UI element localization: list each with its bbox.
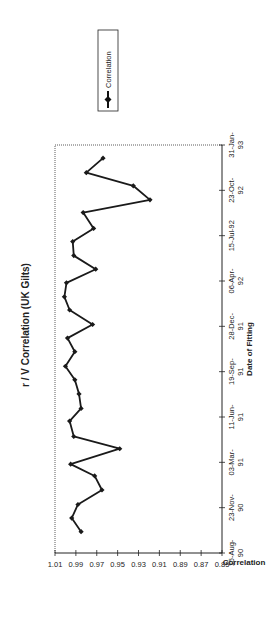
x-tick-label-year: 90	[236, 549, 245, 557]
y-axis-title: Correlation	[223, 558, 266, 567]
x-tick-label-year: 91	[236, 367, 245, 375]
legend: Correlation	[98, 30, 118, 111]
y-tick-label: 0.93	[131, 560, 146, 569]
y-tick-label: 0.91	[152, 560, 167, 569]
data-point-marker	[71, 434, 76, 439]
y-tick-label: 0.99	[69, 560, 84, 569]
y-tick-label: 0.95	[110, 560, 125, 569]
x-tick-label: 06-Apr-	[227, 268, 236, 294]
x-tick-label: 03-Mar-	[227, 449, 236, 476]
x-tick-label-year: 91	[236, 322, 245, 330]
correlation-series	[62, 156, 153, 535]
y-tick-label: 0.87	[194, 560, 209, 569]
plot-area	[55, 145, 222, 553]
legend-label: Correlation	[104, 51, 113, 88]
x-tick-label: 11-Jun-	[227, 404, 236, 429]
x-tick-label: 15-Jul-92	[227, 220, 236, 251]
chart-title: r / V Correlation (UK Gilts)	[20, 263, 31, 387]
x-tick-label-year: 91	[236, 413, 245, 421]
data-point-marker	[76, 391, 81, 396]
x-axis-ticks: 15-Aug-9023-Nov-9003-Mar-9111-Jun-9119-S…	[219, 132, 245, 567]
x-tick-label-year: 91	[236, 458, 245, 466]
data-point-marker	[62, 294, 67, 299]
x-tick-label: 19-Sep-	[227, 358, 236, 385]
x-tick-label-year: 92	[236, 277, 245, 285]
chart: r / V Correlation (UK Gilts) Correlation…	[0, 0, 273, 621]
x-tick-label-year: 90	[236, 503, 245, 511]
x-tick-label-year: 92	[236, 186, 245, 194]
y-tick-label: 0.97	[89, 560, 104, 569]
x-tick-label: 23-Oct-	[227, 177, 236, 203]
x-tick-label-year: 93	[236, 141, 245, 149]
y-tick-label: 1.01	[48, 560, 63, 569]
y-tick-label: 0.89	[173, 560, 188, 569]
x-tick-label: 23-Nov-	[227, 494, 236, 521]
data-point-marker	[117, 446, 122, 451]
x-tick-label: 28-Dec-	[227, 312, 236, 339]
x-tick-label: 31-Jan-	[227, 132, 236, 158]
x-axis-title: Date of Fitting	[245, 322, 254, 376]
